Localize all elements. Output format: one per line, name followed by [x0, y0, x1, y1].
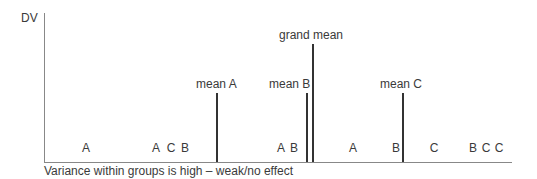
- caption: Variance within groups is high – weak/no…: [44, 164, 293, 178]
- data-point: C: [167, 141, 176, 155]
- data-point: C: [430, 141, 439, 155]
- x-axis: [44, 162, 512, 163]
- mean-a-label: mean A: [196, 77, 237, 91]
- data-point: B: [469, 141, 477, 155]
- y-axis-label: DV: [21, 11, 38, 25]
- y-axis: [44, 13, 45, 163]
- mean-c-label: mean C: [380, 77, 422, 91]
- mean-c-line: [402, 93, 404, 162]
- grand-mean-line: [312, 44, 314, 162]
- data-point: A: [349, 141, 357, 155]
- data-point: B: [181, 141, 189, 155]
- data-point: B: [392, 141, 400, 155]
- data-point: C: [495, 141, 504, 155]
- mean-b-label: mean B: [269, 77, 310, 91]
- data-point: A: [82, 141, 90, 155]
- mean-b-line: [306, 93, 308, 162]
- data-point: A: [277, 141, 285, 155]
- data-point: C: [482, 141, 491, 155]
- data-point: A: [152, 141, 160, 155]
- data-point: B: [290, 141, 298, 155]
- grand-mean-label: grand mean: [279, 28, 343, 42]
- mean-a-line: [216, 93, 218, 162]
